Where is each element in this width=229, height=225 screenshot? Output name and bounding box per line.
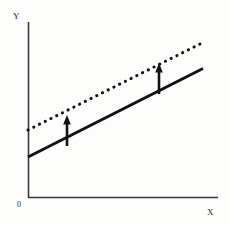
shifted-line-series — [28, 42, 204, 130]
figure-container: Y X 0 — [0, 0, 229, 225]
original-line-series — [28, 69, 203, 158]
original-line — [28, 69, 203, 158]
shift-arrow-right-head — [155, 63, 163, 73]
x-axis-label: X — [207, 208, 214, 217]
origin-label: 0 — [17, 201, 21, 209]
shifted-line — [28, 42, 204, 130]
shift-arrow-left — [63, 115, 71, 146]
y-axis-label: Y — [13, 12, 20, 21]
shift-arrow-left-head — [63, 115, 71, 125]
line-chart-canvas — [0, 0, 229, 225]
